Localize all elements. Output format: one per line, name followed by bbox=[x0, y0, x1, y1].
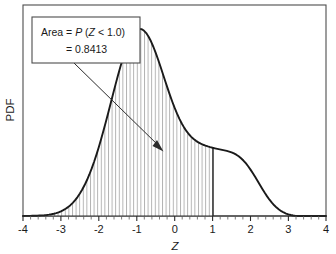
xtick-label: -1 bbox=[132, 223, 142, 235]
xtick-label: 3 bbox=[285, 223, 291, 235]
xtick-label: -4 bbox=[18, 223, 28, 235]
figure-normal-distribution-pdf: -4 -3 -2 -1 0 1 2 3 4 Z PDF Area = P (Z … bbox=[0, 0, 336, 254]
xtick-label: -3 bbox=[56, 223, 66, 235]
xtick-label: -2 bbox=[94, 223, 104, 235]
annotation-line-1: Area = P (Z < 1.0) bbox=[41, 26, 125, 38]
x-axis-title: Z bbox=[170, 240, 179, 252]
xtick-label: 0 bbox=[172, 223, 178, 235]
x-axis-tick-labels: -4 -3 -2 -1 0 1 2 3 4 bbox=[18, 223, 329, 235]
y-axis-title: PDF bbox=[4, 99, 16, 122]
annotation-area-prefix: Area = bbox=[41, 26, 75, 38]
chart-canvas: -4 -3 -2 -1 0 1 2 3 4 Z PDF Area = P (Z … bbox=[0, 0, 336, 254]
xtick-label: 1 bbox=[210, 223, 216, 235]
area-annotation-box: Area = P (Z < 1.0) = 0.8413 bbox=[32, 17, 140, 63]
annotation-condition: < 1.0) bbox=[95, 26, 125, 38]
annotation-p-symbol: P bbox=[75, 26, 82, 38]
xtick-label: 4 bbox=[323, 223, 329, 235]
xtick-label: 2 bbox=[247, 223, 253, 235]
annotation-line-2: = 0.8413 bbox=[66, 43, 107, 55]
